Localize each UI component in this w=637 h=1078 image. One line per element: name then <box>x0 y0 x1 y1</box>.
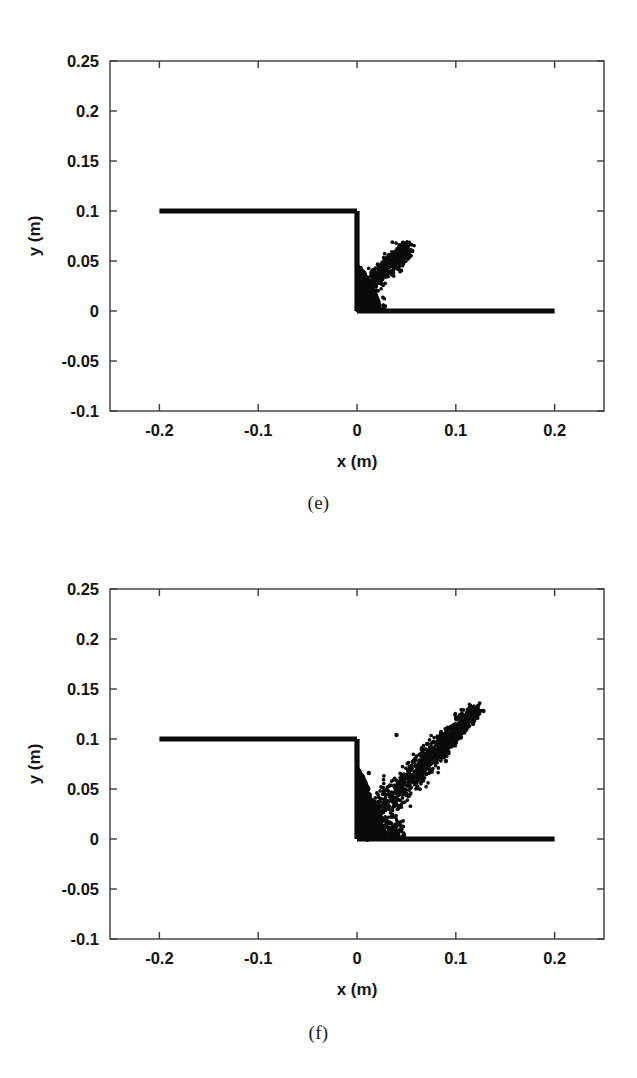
plot-panel-f: -0.2-0.100.10.20.250.20.150.10.050-0.05-… <box>0 548 637 1048</box>
particle-cloud <box>355 701 485 842</box>
x-tick-label: -0.2 <box>145 421 173 439</box>
outlier-particle <box>425 742 429 746</box>
x-tick-label: 0.1 <box>444 949 467 967</box>
particle-cloud <box>355 240 416 313</box>
y-tick-label: 0.1 <box>76 730 99 748</box>
scatter-plot-e: -0.2-0.100.10.20.250.20.150.10.050-0.05-… <box>0 20 637 490</box>
y-tick-label: 0 <box>90 302 99 320</box>
axis-ticks: -0.2-0.100.10.20.250.20.150.10.050-0.05-… <box>61 52 604 439</box>
axis-ticks: -0.2-0.100.10.20.250.20.150.10.050-0.05-… <box>61 580 604 967</box>
y-axis-title: y (m) <box>25 744 44 785</box>
y-tick-label: 0.25 <box>67 52 99 70</box>
outlier-particle <box>444 759 448 763</box>
outlier-particle <box>410 249 414 253</box>
outlier-particle <box>394 733 398 737</box>
x-axis-title: x (m) <box>337 980 378 999</box>
y-tick-label: 0.1 <box>76 202 99 220</box>
y-tick-label: -0.1 <box>71 930 99 948</box>
x-tick-label: 0.2 <box>543 421 566 439</box>
y-tick-label: 0.05 <box>67 252 99 270</box>
x-axis-title: x (m) <box>337 452 378 471</box>
outlier-particle <box>401 241 405 245</box>
outlier-particle <box>481 709 485 713</box>
x-tick-label: 0.2 <box>543 949 566 967</box>
panel-caption-e: (e) <box>0 492 637 514</box>
outlier-particle <box>367 771 371 775</box>
y-tick-label: -0.1 <box>71 402 99 420</box>
y-tick-label: -0.05 <box>61 352 99 370</box>
y-tick-label: 0 <box>90 830 99 848</box>
outlier-particle <box>387 257 391 261</box>
figure-container: -0.2-0.100.10.20.250.20.150.10.050-0.05-… <box>0 0 637 1078</box>
plot-panel-e: -0.2-0.100.10.20.250.20.150.10.050-0.05-… <box>0 20 637 520</box>
y-tick-label: 0.2 <box>76 630 99 648</box>
x-tick-label: 0.1 <box>444 421 467 439</box>
panel-caption-f: (f) <box>0 1022 637 1044</box>
y-tick-label: 0.15 <box>67 680 99 698</box>
y-tick-label: 0.15 <box>67 152 99 170</box>
y-tick-label: 0.25 <box>67 580 99 598</box>
x-tick-label: 0 <box>352 949 361 967</box>
y-tick-label: 0.05 <box>67 780 99 798</box>
x-tick-label: -0.1 <box>244 421 272 439</box>
x-tick-label: 0 <box>352 421 361 439</box>
scatter-plot-f: -0.2-0.100.10.20.250.20.150.10.050-0.05-… <box>0 548 637 1018</box>
x-tick-label: -0.2 <box>145 949 173 967</box>
x-tick-label: -0.1 <box>244 949 272 967</box>
y-tick-label: 0.2 <box>76 102 99 120</box>
y-axis-title: y (m) <box>25 216 44 257</box>
y-tick-label: -0.05 <box>61 880 99 898</box>
